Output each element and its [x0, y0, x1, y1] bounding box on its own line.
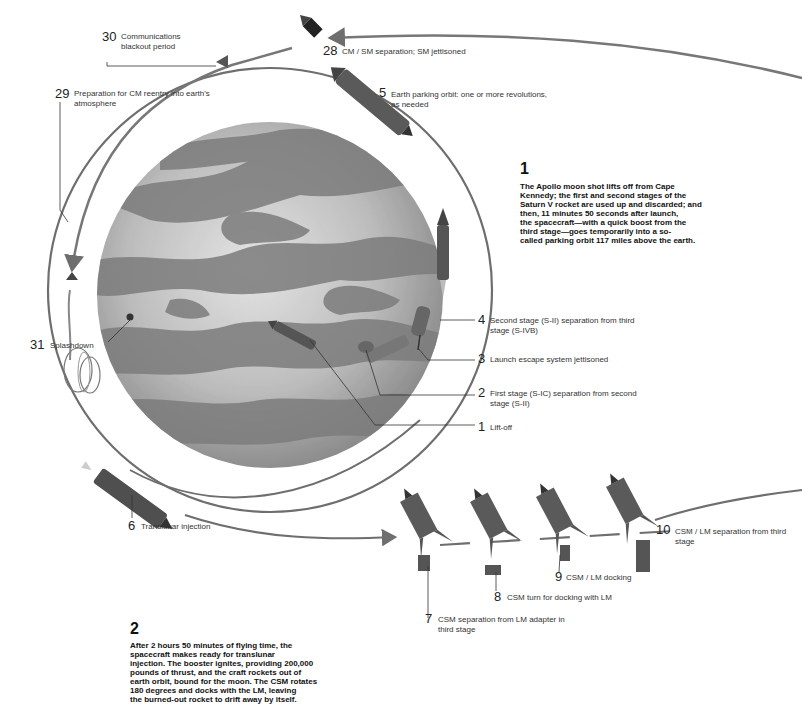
command-module-reentry: [216, 55, 228, 68]
cm-sm-separation-craft: [296, 11, 323, 38]
csm-lm-separation-10: [636, 540, 650, 572]
transposition-path: [440, 530, 690, 545]
earth: [95, 122, 450, 468]
s-ivb-stage-8: [458, 480, 523, 559]
csm-docking-9: [560, 545, 570, 561]
command-module-blackout: [66, 272, 78, 280]
csm-turning-8: [485, 565, 501, 575]
s-ivb-stage-7: [388, 480, 453, 559]
splashdown-point: [127, 314, 134, 321]
s-ivb-stage-9: [524, 475, 589, 554]
translunar-trajectory: [185, 515, 395, 538]
outbound-trajectory: [655, 490, 802, 520]
